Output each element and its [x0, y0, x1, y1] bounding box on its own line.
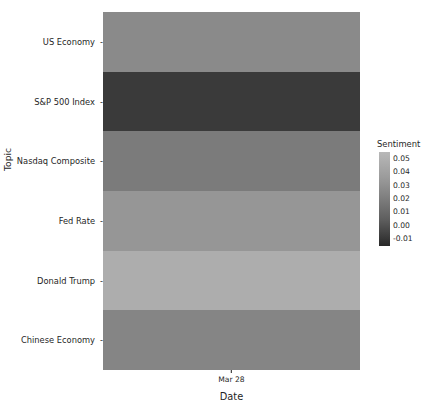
legend-colorbar: Sentiment 0.050.040.030.020.010.00-0.01 [376, 139, 437, 248]
y-axis-tick-label: Chinese Economy [21, 335, 97, 345]
y-axis-tick-mark: - [97, 215, 103, 227]
y-axis-tick-mark: - [97, 155, 103, 167]
heatmap-figure: US Economy-S&P 500 Index-Nasdaq Composit… [0, 0, 437, 410]
y-axis-tick-labels: US Economy-S&P 500 Index-Nasdaq Composit… [0, 12, 103, 370]
heatmap-cell [103, 310, 360, 370]
heatmap-cell [103, 72, 360, 132]
y-axis-tick-label: Fed Rate [59, 216, 97, 226]
heatmap-plot-area [103, 12, 360, 370]
colorbar-tick-labels: 0.050.040.030.020.010.00-0.01 [393, 152, 435, 246]
legend-body: 0.050.040.030.020.010.00-0.01 [376, 152, 437, 248]
y-axis-tick-chinese-economy: Chinese Economy- [21, 334, 103, 346]
y-axis-tick-mark: - [97, 275, 103, 287]
y-axis-tick-label: Donald Trump [37, 276, 97, 286]
heatmap-cell [103, 12, 360, 72]
colorbar-tick-label: 0.01 [393, 207, 410, 217]
colorbar-gradient [379, 152, 390, 246]
y-axis-tick-fed-rate: Fed Rate- [59, 215, 103, 227]
heatmap-cell [103, 251, 360, 311]
y-axis-tick-mark: - [97, 96, 103, 108]
y-axis-tick-us-economy: US Economy- [43, 36, 103, 48]
colorbar-tick-label: 0.05 [393, 154, 410, 164]
x-axis-tick-label: Mar 28 [218, 375, 244, 384]
colorbar-tick-label: 0.02 [393, 194, 410, 204]
y-axis-tick-label: S&P 500 Index [34, 97, 97, 107]
heatmap-cell [103, 191, 360, 251]
y-axis-tick-s-p-500-index: S&P 500 Index- [34, 96, 103, 108]
y-axis-tick-label: Nasdaq Composite [17, 156, 97, 166]
colorbar-tick-label: -0.01 [393, 234, 413, 244]
x-axis-tick-labels: Mar 28 [103, 370, 360, 392]
colorbar-tick-label: 0.03 [393, 181, 410, 191]
x-axis-tick-mark [231, 370, 232, 373]
y-axis-tick-nasdaq-composite: Nasdaq Composite- [17, 155, 103, 167]
y-axis-title: Topic [2, 148, 13, 171]
colorbar-tick-label: 0.04 [393, 167, 410, 177]
y-axis-tick-donald-trump: Donald Trump- [37, 275, 103, 287]
heatmap-cell [103, 131, 360, 191]
y-axis-tick-mark: - [97, 36, 103, 48]
x-axis-tick: Mar 28 [218, 370, 244, 384]
x-axis-title: Date [103, 391, 360, 402]
y-axis-tick-label: US Economy [43, 37, 97, 47]
legend-title: Sentiment [377, 139, 437, 149]
y-axis-tick-mark: - [97, 334, 103, 346]
colorbar-tick-label: 0.00 [393, 221, 410, 231]
